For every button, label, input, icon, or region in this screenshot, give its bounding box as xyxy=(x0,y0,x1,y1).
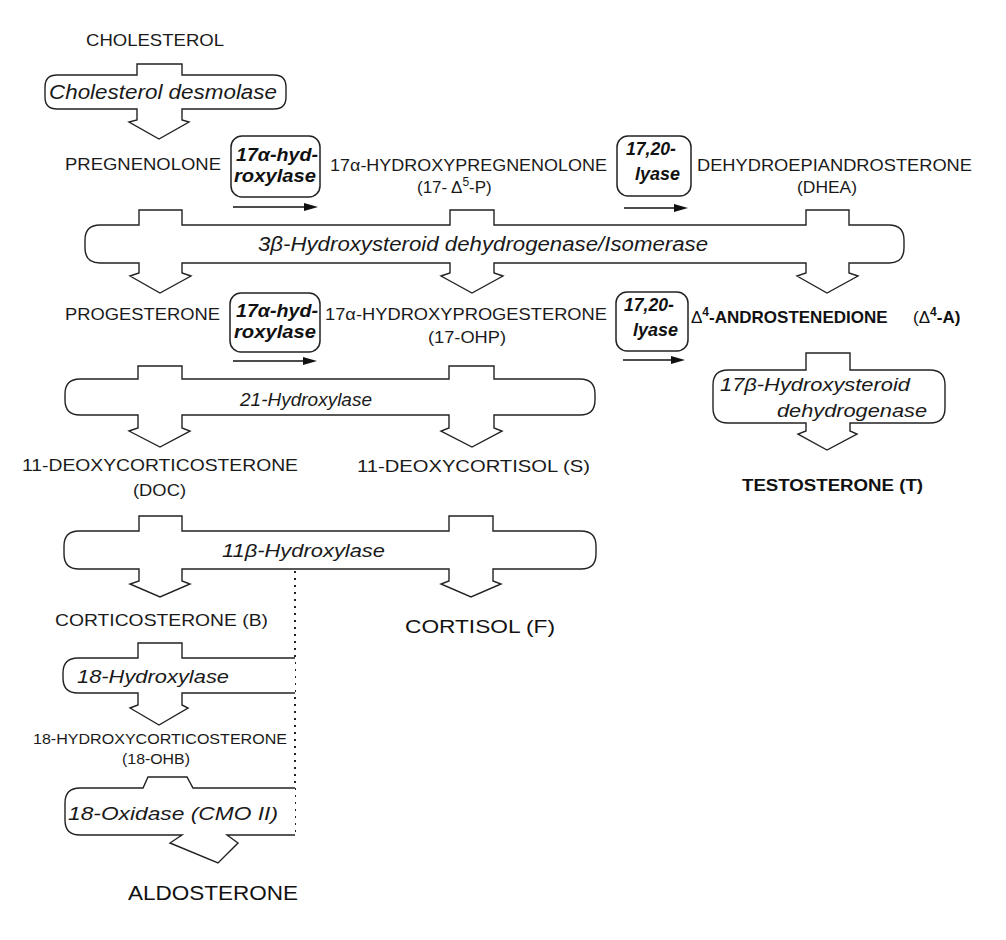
metabolite-testosterone: TESTOSTERONE (T) xyxy=(742,477,923,494)
metabolite-aldosterone: ALDOSTERONE xyxy=(128,882,298,904)
metabolite-17a-hydroxyprogesterone-abbr: (17-OHP) xyxy=(428,328,506,347)
metabolite-deoxycortisol: 11-DEOXYCORTISOL (S) xyxy=(357,457,590,476)
enzyme-17a-hydroxylase-top: 17α-hyd- roxylase xyxy=(231,136,320,211)
metabolite-pregnenolone: PREGNENOLONE xyxy=(65,155,221,174)
enzyme-label-line2: lyase xyxy=(635,164,680,184)
enzyme-label-line2: roxylase xyxy=(234,322,316,342)
arrowhead-icon xyxy=(304,203,318,211)
enzyme-label-line1: 17α-hyd- xyxy=(236,301,318,321)
enzyme-label: 11β-Hydroxylase xyxy=(222,540,385,561)
steroidogenesis-diagram: CHOLESTEROL Cholesterol desmolase PREGNE… xyxy=(0,0,1006,940)
metabolite-dhea-abbr: (DHEA) xyxy=(797,178,857,197)
metabolite-cholesterol: CHOLESTEROL xyxy=(86,31,224,50)
metabolite-18-hydroxycorticosterone-abbr: (18-OHB) xyxy=(122,751,190,767)
enzyme-cholesterol-desmolase: Cholesterol desmolase xyxy=(45,64,286,139)
enzyme-label: 18-Oxidase (CMO II) xyxy=(68,803,278,824)
metabolite-androstenedione-abbr: (Δ4-A) xyxy=(913,305,960,327)
enzyme-21-hydroxylase: 21-Hydroxylase xyxy=(65,366,595,447)
metabolite-17a-hydroxypregnenolone-abbr: (17- Δ5-P) xyxy=(417,175,492,197)
enzyme-label-line2: roxylase xyxy=(234,166,316,186)
enzyme-18-hydroxylase: 18-Hydroxylase xyxy=(63,643,295,725)
enzyme-label-line1: 17β-Hydroxysteroid xyxy=(720,374,912,395)
enzyme-18-oxidase: 18-Oxidase (CMO II) xyxy=(65,777,295,863)
metabolite-deoxycorticosterone: 11-DEOXYCORTICOSTERONE xyxy=(22,456,298,475)
metabolite-androstenedione: Δ4-ANDROSTENEDIONE xyxy=(691,305,888,327)
enzyme-label: 21-Hydroxylase xyxy=(239,389,372,410)
enzyme-label-line1: 17α-hyd- xyxy=(236,145,318,165)
metabolite-corticosterone: CORTICOSTERONE (B) xyxy=(55,611,268,630)
enzyme-17a-hydroxylase-bottom: 17α-hyd- roxylase xyxy=(230,293,320,365)
enzyme-3b-hsd: 3β-Hydroxysteroid dehydrogenase/Isomeras… xyxy=(85,210,904,293)
metabolite-progesterone: PROGESTERONE xyxy=(65,305,220,324)
arrowhead-icon xyxy=(674,204,688,212)
enzyme-17-20-lyase-top: 17,20- lyase xyxy=(617,136,691,212)
metabolite-17a-hydroxypregnenolone: 17α-HYDROXYPREGNENOLONE xyxy=(330,156,607,175)
enzyme-label: 18-Hydroxylase xyxy=(77,666,229,687)
enzyme-label-line1: 17,20- xyxy=(624,295,674,315)
enzyme-label-line2: lyase xyxy=(633,320,678,340)
enzyme-label: Cholesterol desmolase xyxy=(49,81,277,103)
metabolite-18-hydroxycorticosterone: 18-HYDROXYCORTICOSTERONE xyxy=(33,731,287,747)
enzyme-11b-hydroxylase: 11β-Hydroxylase xyxy=(64,516,596,597)
metabolite-17a-hydroxyprogesterone: 17α-HYDROXYPROGESTERONE xyxy=(325,305,607,324)
metabolite-deoxycorticosterone-abbr: (DOC) xyxy=(133,481,186,500)
metabolite-dhea: DEHYDROEPIANDROSTERONE xyxy=(697,156,972,175)
enzyme-label-line1: 17,20- xyxy=(626,139,676,159)
enzyme-17-20-lyase-bottom: 17,20- lyase xyxy=(616,292,688,364)
enzyme-label-line2: dehydrogenase xyxy=(777,400,927,421)
arrowhead-icon xyxy=(303,357,317,365)
arrowhead-icon xyxy=(671,356,685,364)
metabolite-cortisol: CORTISOL (F) xyxy=(405,616,555,637)
enzyme-17b-hsd: 17β-Hydroxysteroid dehydrogenase xyxy=(713,353,945,450)
enzyme-label: 3β-Hydroxysteroid dehydrogenase/Isomeras… xyxy=(258,233,708,255)
